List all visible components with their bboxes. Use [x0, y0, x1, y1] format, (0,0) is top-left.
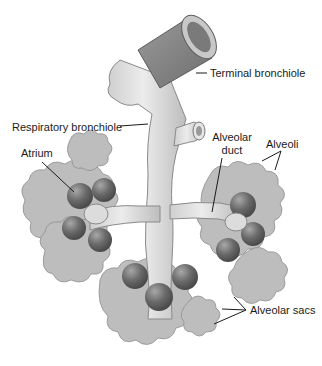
label-atrium: Atrium: [21, 147, 53, 159]
label-alveoli: Alveoli: [266, 138, 298, 150]
label-terminal-bronchiole: Terminal bronchiole: [210, 67, 305, 79]
label-alveolar-sacs: Alveolar sacs: [250, 304, 315, 316]
leader-alveolar-sacs-2: [222, 309, 246, 310]
label-alveolar-duct-line1: Alveolar: [212, 131, 252, 143]
leader-respiratory-bronchiole: [120, 124, 148, 126]
label-alveolar-duct-line2: duct: [212, 144, 252, 156]
label-respiratory-bronchiole: Respiratory bronchiole: [12, 121, 122, 133]
